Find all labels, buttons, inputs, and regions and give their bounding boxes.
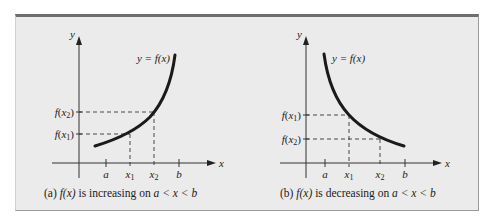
x-axis-arrow-icon [207,160,216,166]
xtick-label-x1: x1 [344,168,354,182]
xtick-label-a: a [103,168,109,180]
caption-a: (a) f(x) is increasing on a < x < b [44,187,197,200]
panel-b: y x y = f(x) f(x1) f(x2) a x1 x2 b (b) f… [280,28,450,200]
xtick-label-a: a [322,168,328,180]
ytick-label-fx1: f(x1) [282,109,302,123]
x-axis-label: x [218,157,224,169]
caption-b: (b) f(x) is decreasing on a < x < b [280,187,436,200]
decreasing-curve [324,54,404,146]
ytick-label-fx2: f(x2) [282,133,302,147]
x-axis-arrow-icon [433,160,442,166]
increasing-curve [95,55,175,146]
ytick-label-fx2: f(x2) [55,106,75,120]
y-axis-arrow-icon [303,36,309,45]
xtick-label-b: b [176,168,182,180]
y-axis-arrow-icon [76,36,82,45]
curve-label-a: y = f(x) [136,52,170,65]
y-axis-label: y [69,28,75,40]
xtick-label-x2: x2 [149,168,159,182]
dashed-guides [306,115,380,167]
y-axis-label: y [296,28,302,40]
diagram-canvas: y x y = f(x) f(x2) f(x1) a x1 x2 b (a) f… [0,0,489,221]
x-axis-label: x [444,157,450,169]
ytick-label-fx1: f(x1) [55,128,75,142]
xtick-label-x1: x1 [125,168,135,182]
panel-a: y x y = f(x) f(x2) f(x1) a x1 x2 b (a) f… [44,28,224,200]
xtick-label-b: b [402,168,408,180]
curve-label-b: y = f(x) [331,52,365,65]
xtick-label-x2: x2 [375,168,385,182]
